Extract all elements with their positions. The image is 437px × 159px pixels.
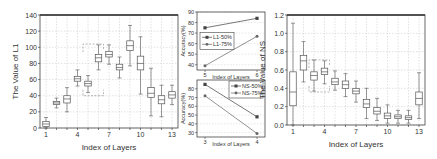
box-layer-8 [363, 88, 370, 118]
y-tick-label: 80 [188, 20, 194, 26]
chart-l1-accuracy-line: 40506070809056Index of LayersAccuracy(%)… [180, 9, 265, 80]
box-layer-3 [64, 88, 71, 112]
box-layer-5 [85, 76, 92, 93]
legend-label: L1-75% [213, 41, 232, 47]
box-layer-13 [169, 85, 176, 104]
y-tick-label: 140 [25, 12, 37, 19]
box-layer-6 [342, 74, 349, 97]
x-tick-label: 10 [137, 131, 145, 138]
square-marker [203, 26, 206, 29]
x-tick-label: 1 [291, 128, 295, 135]
y-tick-label: 0.0 [274, 122, 284, 129]
y-tick-label: 60 [29, 76, 37, 83]
figure: 0204060801001201401471013Index of Layers… [0, 0, 437, 159]
box-layer-2 [300, 42, 307, 82]
x-axis-title: Index of Layers [82, 143, 137, 152]
box-layer-11 [148, 68, 155, 116]
legend-label: L1-50% [213, 34, 232, 40]
legend: L1-50%L1-75% [200, 32, 234, 49]
y-axis-title: Accuracy(%) [180, 25, 186, 56]
x-axis-title: Index of Layers [212, 74, 250, 80]
y-axis-title: Accuracy(%) [180, 93, 186, 124]
x-tick-label: 4 [323, 128, 327, 135]
circle-marker [256, 35, 259, 38]
x-tick-label: 5 [203, 72, 206, 78]
y-tick-label: 60 [188, 41, 194, 47]
box-layer-4 [321, 61, 328, 84]
y-axis-title: The Value of L1 [11, 43, 20, 99]
x-axis-title: Index of Layers [329, 140, 384, 149]
x-tick-label: 7 [354, 128, 358, 135]
x-tick-label: 13 [415, 128, 423, 135]
box-layer-8 [116, 57, 123, 78]
x-tick-label: 4 [76, 131, 80, 138]
x-tick-label: 10 [384, 128, 392, 135]
chart-ns-boxplot: 0.00.20.40.60.81.01.21471013Index of Lay… [258, 12, 425, 150]
box-layer-10 [137, 37, 144, 94]
chart-ns-accuracy-line: 30405060708034Index of LayersAccuracy(%)… [180, 80, 265, 147]
y-tick-label: 60 [188, 103, 194, 109]
square-marker [203, 83, 206, 86]
chart-l1-boxplot: 0204060801001201401471013Index of Layers… [11, 12, 178, 153]
circle-marker [204, 64, 207, 67]
y-tick-label: 50 [188, 51, 194, 57]
box-layer-1 [43, 118, 50, 128]
x-tick-label: 1 [44, 131, 48, 138]
y-tick-label: 0.8 [274, 48, 284, 55]
y-tick-label: 0.4 [274, 85, 284, 92]
box-layer-2 [53, 98, 60, 108]
y-tick-label: 0.2 [274, 103, 284, 110]
y-tick-label: 1.0 [274, 30, 284, 37]
square-marker [255, 115, 258, 118]
box-layer-1 [290, 23, 297, 125]
y-tick-label: 80 [29, 60, 37, 67]
box-layer-4 [74, 70, 81, 86]
y-tick-label: 120 [25, 28, 37, 35]
y-tick-label: 50 [188, 112, 194, 118]
x-tick-label: 13 [168, 131, 176, 138]
box-layer-9 [374, 98, 381, 120]
x-tick-label: 4 [255, 139, 258, 145]
box-layer-7 [353, 81, 360, 102]
y-tick-label: 30 [188, 130, 194, 136]
y-tick-label: 70 [188, 30, 194, 36]
y-tick-label: 20 [29, 108, 37, 115]
box-layer-10 [384, 105, 391, 123]
y-tick-label: 80 [188, 86, 194, 92]
x-tick-label: 3 [203, 139, 206, 145]
y-tick-label: 0.6 [274, 67, 284, 74]
series-L1-50% [203, 17, 258, 30]
x-tick-label: 7 [107, 131, 111, 138]
y-tick-label: 0 [33, 125, 37, 132]
y-tick-label: 70 [188, 95, 194, 101]
box-layer-13 [416, 73, 423, 119]
y-tick-label: 1.2 [274, 12, 284, 19]
y-tick-label: 90 [188, 9, 194, 15]
x-axis-title: Index of Layers [212, 141, 250, 147]
y-tick-label: 40 [188, 62, 194, 68]
square-marker [255, 17, 258, 20]
box-layer-7 [106, 45, 113, 64]
y-tick-label: 40 [188, 121, 194, 127]
box-layer-9 [127, 25, 134, 65]
box-layer-3 [311, 60, 318, 91]
circle-marker [204, 94, 207, 97]
box-layer-12 [405, 110, 412, 123]
box-layer-6 [95, 45, 102, 70]
y-tick-label: 40 [29, 92, 37, 99]
circle-marker [256, 132, 259, 135]
box-layer-11 [395, 110, 402, 123]
box-layer-5 [332, 71, 339, 90]
y-tick-label: 100 [25, 44, 37, 51]
y-axis-title: The Value of NS [258, 41, 267, 99]
